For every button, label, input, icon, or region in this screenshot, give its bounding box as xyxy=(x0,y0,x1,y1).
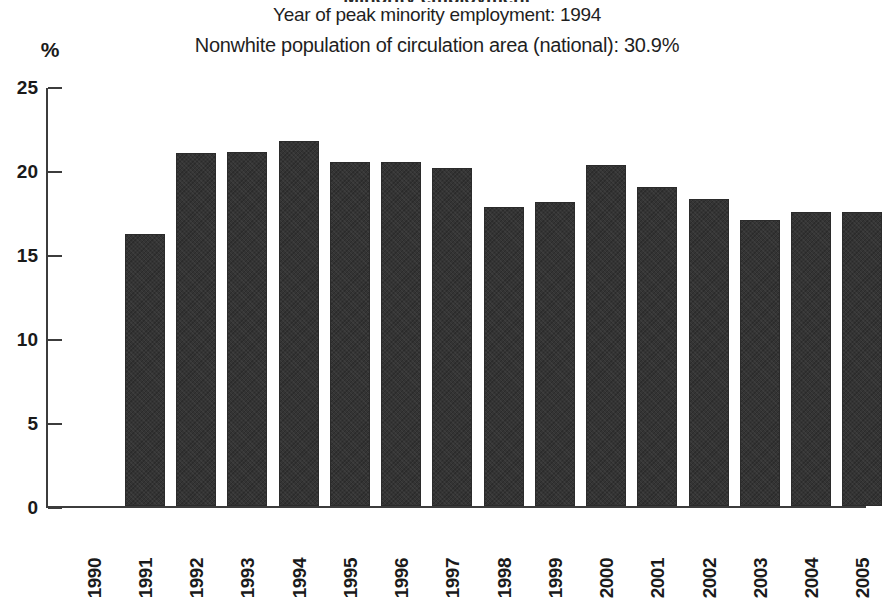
bar-1991 xyxy=(125,234,165,506)
bar-1996 xyxy=(381,162,421,506)
x-tick-label-1991: 1991 xyxy=(136,558,155,598)
bar-2005 xyxy=(842,212,882,506)
bar-2000 xyxy=(586,165,626,506)
bar-2004 xyxy=(791,212,831,506)
chart-subtitle-peak-year: Year of peak minority employment: 1994 xyxy=(0,4,874,26)
bar-2002 xyxy=(689,199,729,506)
x-axis-labels: 1990199119921993199419951996199719981999… xyxy=(48,512,866,560)
chart-subtitle-nonwhite-population: Nonwhite population of circulation area … xyxy=(0,34,874,57)
bar-1999 xyxy=(535,202,575,506)
x-tick-label-2004: 2004 xyxy=(802,558,821,598)
x-tick-label-2000: 2000 xyxy=(597,558,616,598)
bar-1993 xyxy=(227,152,267,506)
x-tick-label-1993: 1993 xyxy=(238,558,257,598)
y-tick-label: 20 xyxy=(17,161,38,183)
bar-2001 xyxy=(637,187,677,506)
y-tick-label: 15 xyxy=(17,245,38,267)
x-axis-line xyxy=(46,506,866,508)
x-tick-label-2002: 2002 xyxy=(700,558,719,598)
bar-1998 xyxy=(484,207,524,506)
chart-title: Minority employment xyxy=(0,0,874,2)
x-tick-label-1995: 1995 xyxy=(341,558,360,598)
x-tick-label-1994: 1994 xyxy=(290,558,309,598)
x-tick-label-1996: 1996 xyxy=(392,558,411,598)
x-tick-label-2001: 2001 xyxy=(648,558,667,598)
bar-1992 xyxy=(176,153,216,506)
bar-2003 xyxy=(740,220,780,506)
y-tick-label: 10 xyxy=(17,329,38,351)
bar-1995 xyxy=(330,162,370,506)
x-tick-label-2005: 2005 xyxy=(853,558,872,598)
x-tick-label-1998: 1998 xyxy=(495,558,514,598)
y-axis-unit-label: % xyxy=(30,38,70,62)
bar-1994 xyxy=(279,141,319,506)
bar-series xyxy=(48,88,866,506)
plot-area: 0510152025 xyxy=(46,88,866,508)
y-tick-label: 0 xyxy=(27,497,38,519)
y-tick-mark xyxy=(48,507,62,509)
x-tick-label-1992: 1992 xyxy=(187,558,206,598)
bar-1997 xyxy=(432,168,472,506)
x-tick-label-2003: 2003 xyxy=(751,558,770,598)
x-tick-label-1999: 1999 xyxy=(546,558,565,598)
x-tick-label-1990: 1990 xyxy=(85,558,104,598)
x-tick-label-1997: 1997 xyxy=(443,558,462,598)
y-tick-label: 5 xyxy=(27,413,38,435)
y-tick-label: 25 xyxy=(17,77,38,99)
